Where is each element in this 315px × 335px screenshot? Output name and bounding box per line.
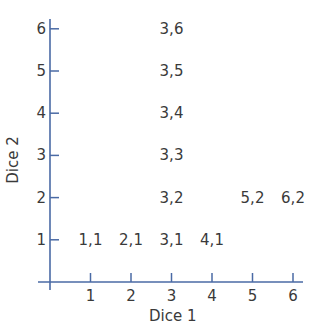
point-label: 3,5 bbox=[160, 64, 184, 79]
point-label: 4,1 bbox=[200, 232, 224, 247]
x-tick-label: 5 bbox=[248, 289, 258, 304]
y-tick-marks bbox=[50, 29, 59, 240]
x-tick-label: 6 bbox=[288, 289, 298, 304]
x-axis-title: Dice 1 bbox=[149, 309, 197, 324]
point-label: 1,1 bbox=[79, 232, 103, 247]
point-label: 3,3 bbox=[160, 148, 184, 163]
x-tick-label: 3 bbox=[167, 289, 177, 304]
point-label: 6,2 bbox=[281, 190, 305, 205]
y-axis-title: Dice 2 bbox=[6, 136, 21, 184]
point-label: 3,1 bbox=[160, 232, 184, 247]
chart-axes bbox=[0, 0, 315, 335]
y-tick-label: 1 bbox=[36, 232, 46, 247]
point-label: 3,2 bbox=[160, 190, 184, 205]
y-tick-label: 4 bbox=[36, 106, 46, 121]
x-tick-label: 4 bbox=[207, 289, 217, 304]
y-tick-label: 3 bbox=[36, 148, 46, 163]
x-tick-label: 2 bbox=[126, 289, 136, 304]
point-label: 5,2 bbox=[241, 190, 265, 205]
point-label: 3,4 bbox=[160, 106, 184, 121]
y-tick-label: 6 bbox=[36, 21, 46, 36]
y-tick-label: 2 bbox=[36, 190, 46, 205]
y-tick-label: 5 bbox=[36, 64, 46, 79]
x-tick-marks bbox=[91, 273, 294, 282]
x-tick-label: 1 bbox=[86, 289, 96, 304]
point-label: 3,6 bbox=[160, 21, 184, 36]
point-label: 2,1 bbox=[119, 232, 143, 247]
